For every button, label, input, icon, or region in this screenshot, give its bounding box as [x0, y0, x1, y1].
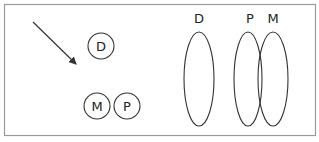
circle-p: P: [114, 93, 140, 119]
ellipse-p-label: P: [246, 11, 254, 26]
ellipse-d-label: D: [194, 11, 204, 26]
ellipse-d: D: [184, 11, 214, 126]
diagram-canvas: D M P D P M: [0, 0, 319, 142]
arrow-icon: [33, 22, 76, 64]
circle-p-label: P: [123, 99, 131, 114]
ellipse-m-label: M: [267, 11, 278, 26]
circle-d: D: [88, 33, 114, 59]
right-panel: D P M: [184, 11, 288, 126]
circle-d-label: D: [96, 39, 106, 54]
circle-m: M: [84, 93, 110, 119]
circle-m-label: M: [91, 99, 102, 114]
ellipse-m: M: [258, 11, 288, 126]
left-panel: D M P: [33, 22, 140, 119]
